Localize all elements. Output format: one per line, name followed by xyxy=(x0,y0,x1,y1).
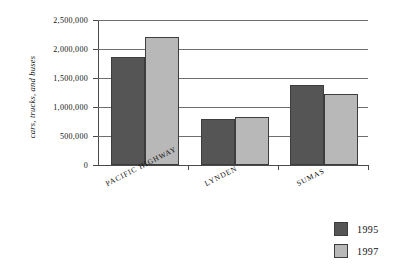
bar-lynden-1995 xyxy=(201,119,235,165)
legend-item-1997: 1997 xyxy=(334,240,379,262)
legend-item-1995: 1995 xyxy=(334,218,379,240)
x-tick-mark-3 xyxy=(368,165,369,170)
legend-label-1995: 1995 xyxy=(357,224,379,235)
y-axis-line xyxy=(98,20,99,166)
y-tick-label-2000000: 2,000,000 xyxy=(53,45,88,54)
gridline-2000000 xyxy=(98,49,368,50)
bar-sumas-1997 xyxy=(324,94,358,165)
x-category-label-lynden: LYNDEN xyxy=(203,164,239,188)
legend-swatch-1997 xyxy=(334,244,348,258)
y-tick-label-500000: 500,000 xyxy=(60,132,88,141)
bar-pacific-highway-1995 xyxy=(111,57,145,166)
legend-label-1997: 1997 xyxy=(357,246,379,257)
legend-swatch-1995 xyxy=(334,222,348,236)
x-tick-mark-2 xyxy=(278,165,279,170)
x-category-label-sumas: SUMAS xyxy=(295,166,326,188)
bar-chart-figure: cars, trucks, and buses 2,500,000 2,000,… xyxy=(0,0,414,273)
gridline-2500000 xyxy=(98,20,368,21)
y-axis-title: cars, trucks, and buses xyxy=(27,17,37,177)
plot-area xyxy=(98,20,368,165)
chart-legend: 1995 1997 xyxy=(334,218,379,262)
y-tick-label-1000000: 1,000,000 xyxy=(53,103,88,112)
x-tick-mark-1 xyxy=(188,165,189,170)
y-tick-label-0: 0 xyxy=(84,161,88,170)
bar-sumas-1995 xyxy=(290,85,324,165)
bar-lynden-1997 xyxy=(235,117,269,165)
y-tick-label-2500000: 2,500,000 xyxy=(53,16,88,25)
y-tick-label-1500000: 1,500,000 xyxy=(53,74,88,83)
